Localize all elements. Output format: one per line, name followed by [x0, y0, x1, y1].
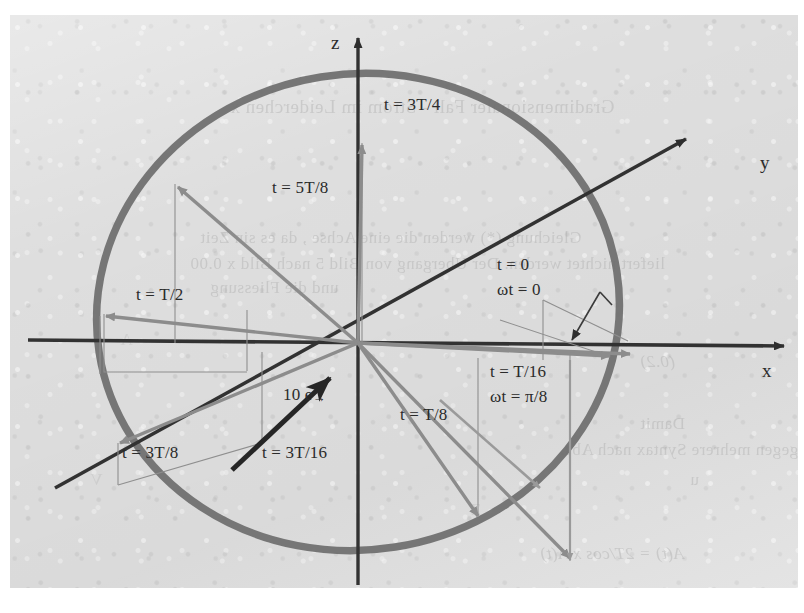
label-magnitude: 10 e→ — [283, 385, 313, 405]
label-t0-omega: ωt = 0 — [497, 280, 541, 300]
label-tT8: t = T/8 — [400, 405, 448, 425]
axis-label-y: y — [760, 152, 770, 174]
label-t3T4: t = 3T/4 — [384, 95, 441, 115]
label-t5T8: t = 5T/8 — [272, 178, 329, 198]
label-t3T8: t = 3T/8 — [122, 443, 179, 463]
label-t0: t = 0 — [497, 255, 529, 275]
label-tT16-omega: ωt = π/8 — [490, 387, 547, 407]
label-tT16: t = T/16 — [490, 362, 546, 382]
label-tT2: t = T/2 — [136, 285, 184, 305]
scanned-page: Gradimensionaler Fall - Strom im Leiderc… — [0, 0, 804, 613]
label-t3T16: t = 3T/16 — [262, 443, 327, 463]
magnitude-value: 10 e — [283, 385, 313, 404]
axis-label-x: x — [762, 360, 772, 382]
axis-label-z: z — [331, 32, 340, 54]
